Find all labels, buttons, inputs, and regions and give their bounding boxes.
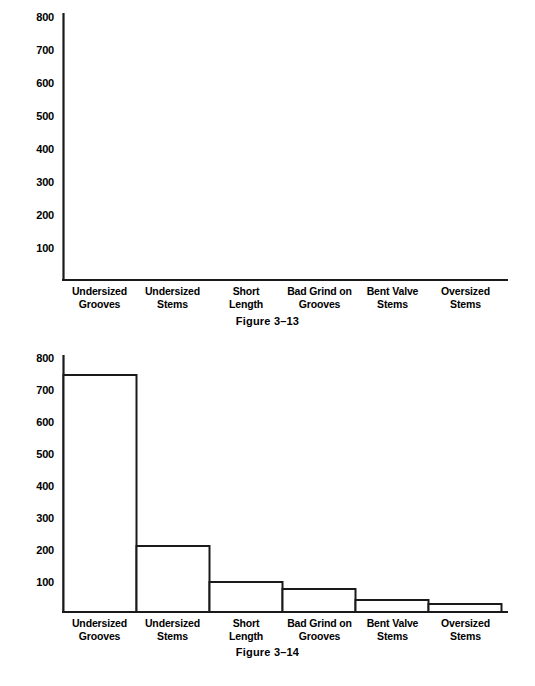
- y-tick-label: 200: [20, 544, 54, 556]
- x-category-label: ShortLength: [209, 617, 283, 642]
- y-tick-label: 200: [20, 209, 54, 221]
- y-tick-label: 400: [20, 143, 54, 155]
- y-tick-label: 600: [20, 77, 54, 89]
- x-category-label: OversizedStems: [429, 285, 502, 310]
- y-tick-label: 400: [20, 480, 54, 492]
- y-tick-label: 700: [20, 44, 54, 56]
- x-category-label: Bent ValveStems: [356, 285, 429, 310]
- y-tick-label: 300: [20, 512, 54, 524]
- y-tick-label: 100: [20, 242, 54, 254]
- x-category-label: UndersizedStems: [136, 285, 209, 310]
- y-tick-label: 800: [20, 352, 54, 364]
- bar-bent-valve-stems: [356, 600, 429, 612]
- plot-area-top: 800 700 600 500 400 300 200 100 Undersiz…: [0, 0, 535, 310]
- plot-area-bottom: 800 700 600 500 400 300 200 100 Undersiz…: [0, 343, 535, 653]
- x-category-label: UndersizedGrooves: [63, 617, 136, 642]
- bar-bad-grind-on-grooves: [283, 589, 356, 612]
- chart-figure-3-13: 800 700 600 500 400 300 200 100 Undersiz…: [0, 0, 535, 343]
- x-category-label: Bent ValveStems: [356, 617, 429, 642]
- chart-figure-3-14: 800 700 600 500 400 300 200 100 Undersiz…: [0, 343, 535, 686]
- x-category-label: Bad Grind onGrooves: [283, 617, 356, 642]
- bar-oversized-stems: [429, 604, 502, 612]
- y-tick-label: 600: [20, 416, 54, 428]
- x-category-label: ShortLength: [209, 285, 283, 310]
- x-category-label: Bad Grind onGrooves: [283, 285, 356, 310]
- bar-short-length: [210, 582, 283, 612]
- y-tick-label: 500: [20, 110, 54, 122]
- x-category-label: UndersizedStems: [136, 617, 209, 642]
- y-tick-label: 500: [20, 448, 54, 460]
- x-category-label: UndersizedGrooves: [63, 285, 136, 310]
- axes-svg-top: [0, 0, 535, 310]
- figure-caption: Figure 3–13: [0, 315, 535, 327]
- bar-undersized-stems: [137, 546, 210, 612]
- y-tick-label: 800: [20, 11, 54, 23]
- y-tick-label: 700: [20, 384, 54, 396]
- y-tick-label: 300: [20, 176, 54, 188]
- y-tick-label: 100: [20, 576, 54, 588]
- figure-caption: Figure 3–14: [0, 646, 535, 658]
- page-root: 800 700 600 500 400 300 200 100 Undersiz…: [0, 0, 535, 686]
- bar-undersized-grooves: [64, 375, 137, 612]
- bars-group-bottom: [64, 375, 502, 612]
- axes-svg-bottom: [0, 343, 535, 653]
- x-category-label: OversizedStems: [429, 617, 502, 642]
